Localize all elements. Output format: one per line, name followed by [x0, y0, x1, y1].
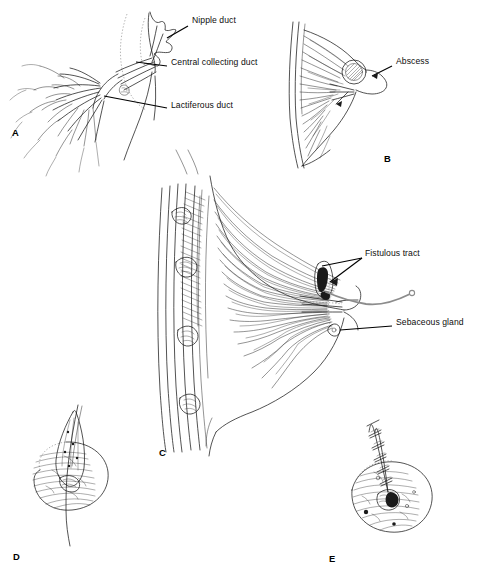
panel-letter-c: C [159, 447, 166, 458]
panel-e-artwork [352, 420, 432, 532]
panel-letter-a: A [12, 127, 19, 138]
panel-d-artwork [33, 405, 108, 546]
label-nipple-duct: Nipple duct [192, 15, 236, 26]
panel-letter-d: D [13, 551, 20, 562]
label-fistulous-tract: Fistulous tract [365, 248, 420, 259]
panel-letter-e: E [329, 553, 335, 564]
label-abscess: Abscess [396, 56, 429, 67]
leader-nipple-duct [167, 26, 188, 38]
label-sebaceous-gland: Sebaceous gland [396, 317, 464, 328]
leader-lactiferous-duct [104, 96, 167, 108]
leader-sebaceous-gland [340, 326, 392, 330]
label-lactiferous-duct: Lactiferous duct [171, 100, 233, 111]
leader-central-collecting-duct [136, 62, 167, 66]
probe-wire [326, 292, 410, 304]
panel-letter-b: B [384, 153, 391, 164]
chest-wall [158, 184, 209, 452]
figure-canvas: .ink {stroke:#1a1a1a;fill:none;stroke-wi… [0, 0, 495, 581]
panel-b-artwork [289, 22, 392, 168]
panel-a-artwork [10, 12, 198, 176]
illustration-linework: .ink {stroke:#1a1a1a;fill:none;stroke-wi… [0, 0, 495, 581]
probe-handle [409, 290, 414, 295]
panel-c-artwork [158, 176, 415, 456]
label-central-collecting-duct: Central collecting duct [171, 57, 267, 68]
